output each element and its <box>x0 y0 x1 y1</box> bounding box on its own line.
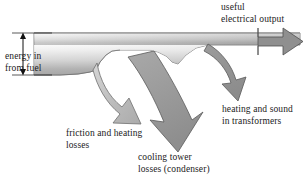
cooling-tower-line-1: cooling tower <box>138 152 192 162</box>
friction-losses-line-2: losses <box>66 140 89 150</box>
friction-and-heating-losses-arrow <box>93 63 141 124</box>
transformers-line-2: in transformers <box>222 116 281 126</box>
cooling-tower-line-2: losses (condenser) <box>138 164 210 174</box>
useful-output-line-2: electrical output <box>221 14 284 24</box>
energy-in-line-2: from fuel <box>5 63 42 73</box>
friction-losses-line-1: friction and heating <box>66 128 142 138</box>
energy-in-line-1: energy in <box>5 51 41 61</box>
useful-output-line-1: useful <box>221 2 245 12</box>
label-useful-electrical-output: usefulelectrical output <box>221 2 284 25</box>
label-heating-and-sound-in-transformers: heating and soundin transformers <box>222 104 293 127</box>
heating-and-sound-in-transformers-arrow <box>204 44 246 101</box>
label-cooling-tower-losses: cooling towerlosses (condenser) <box>138 152 210 175</box>
useful-electrical-output-arrow <box>258 28 303 55</box>
transformers-line-1: heating and sound <box>222 104 293 114</box>
label-friction-and-heating-losses: friction and heatinglosses <box>66 128 142 151</box>
label-energy-in-from-fuel: energy infrom fuel <box>5 51 42 74</box>
energy-flow-diagram: usefulelectrical output energy infrom fu… <box>0 0 308 179</box>
